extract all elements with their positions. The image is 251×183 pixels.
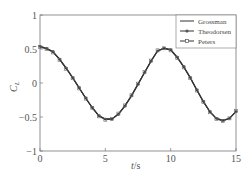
- x-tick-label: 10: [166, 153, 176, 164]
- y-axis-label: CL: [8, 81, 21, 92]
- square-marker-icon: [185, 39, 188, 42]
- cl-time-chart: 05101510.50−0.5−1 t/s CL Grossman Theodo…: [0, 0, 251, 183]
- y-tick-label: 1: [32, 10, 37, 21]
- y-tick-label: 0.5: [25, 44, 38, 55]
- x-tick-label: 0: [38, 153, 43, 164]
- svg-text:Grossman: Grossman: [198, 18, 227, 26]
- circle-marker-icon: [185, 29, 188, 32]
- y-tick-label: −1: [26, 146, 37, 157]
- legend: Grossman Theodorsen Peters: [176, 15, 236, 48]
- svg-text:Theodorsen: Theodorsen: [198, 28, 232, 36]
- y-tick-label: −0.5: [19, 112, 37, 123]
- series-layer: [39, 45, 238, 123]
- x-axis-label: t/s: [131, 160, 141, 171]
- series-line-peters: [40, 47, 236, 121]
- x-tick-label: 5: [103, 153, 108, 164]
- y-tick-label: 0: [32, 78, 37, 89]
- svg-text:Peters: Peters: [198, 38, 215, 46]
- svg-text:CL: CL: [8, 81, 21, 92]
- x-tick-label: 15: [231, 153, 241, 164]
- svg-text:t/s: t/s: [131, 160, 141, 171]
